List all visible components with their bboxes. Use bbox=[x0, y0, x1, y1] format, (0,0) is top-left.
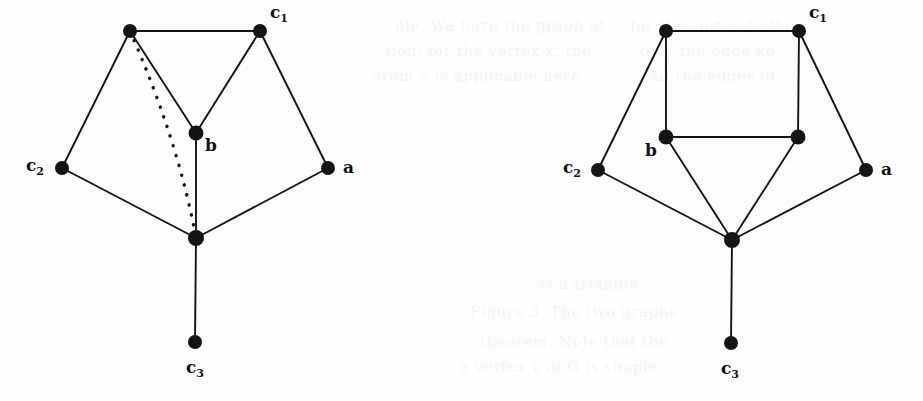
vertex-label-subscript: 1 bbox=[280, 12, 288, 25]
graph-edge bbox=[195, 238, 196, 342]
vertex-label: c3 bbox=[186, 359, 204, 379]
vertex-label: b bbox=[645, 142, 657, 159]
graph-edge bbox=[731, 240, 732, 343]
vertex-label: a bbox=[881, 161, 892, 178]
graph-vertex bbox=[791, 130, 806, 145]
graph-vertex bbox=[724, 232, 740, 248]
graph-vertex bbox=[123, 24, 137, 38]
graph-edge bbox=[196, 168, 328, 238]
graph-vertex bbox=[189, 126, 204, 141]
figure-canvas: ple. We have the graph oftion: for the v… bbox=[0, 0, 923, 401]
edges-layer bbox=[62, 31, 866, 343]
graph-edge bbox=[196, 31, 260, 133]
vertex-label: a bbox=[343, 159, 354, 176]
graph-edge bbox=[666, 137, 732, 240]
graph-edge-dotted bbox=[130, 31, 196, 238]
nodes-layer bbox=[55, 24, 873, 350]
vertex-label: c3 bbox=[721, 360, 739, 380]
vertex-label: c1 bbox=[809, 4, 827, 24]
graph-edge bbox=[62, 31, 130, 168]
graph-vertex bbox=[188, 335, 202, 349]
graph-vertex bbox=[724, 336, 738, 350]
vertex-label: c2 bbox=[26, 157, 44, 177]
graph-vertex bbox=[659, 130, 674, 145]
graph-edge bbox=[260, 31, 328, 168]
graph-vertex bbox=[859, 163, 873, 177]
graph-vertex bbox=[792, 24, 806, 38]
vertex-label-subscript: 2 bbox=[573, 167, 581, 180]
graph-vertex bbox=[659, 24, 673, 38]
vertex-label: b bbox=[205, 137, 217, 154]
vertex-label-subscript: 2 bbox=[36, 165, 44, 178]
vertex-label: c1 bbox=[270, 4, 288, 24]
vertex-label: c2 bbox=[563, 159, 581, 179]
graph-vertex bbox=[321, 161, 335, 175]
graph-edge bbox=[798, 31, 799, 137]
graph-edge bbox=[598, 170, 732, 240]
graph-vertex bbox=[591, 163, 605, 177]
graph-edge bbox=[732, 137, 798, 240]
graph-edge bbox=[732, 170, 866, 240]
vertex-label-subscript: 3 bbox=[196, 367, 204, 380]
vertex-label-subscript: 1 bbox=[819, 12, 827, 25]
graph-edge bbox=[62, 168, 196, 238]
graph-vertex bbox=[188, 230, 204, 246]
vertex-label-subscript: 3 bbox=[731, 368, 739, 381]
graph-vertex bbox=[253, 24, 267, 38]
graph-edge bbox=[799, 31, 866, 170]
graph-vertex bbox=[55, 161, 69, 175]
graph-drawing bbox=[0, 0, 923, 401]
